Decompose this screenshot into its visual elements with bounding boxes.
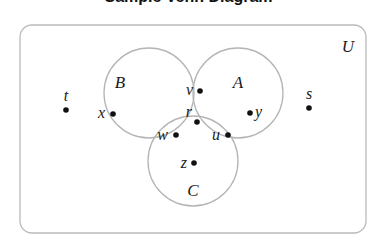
set-a-circle	[193, 48, 283, 138]
point-r-dot	[194, 119, 200, 125]
point-z-dot	[191, 160, 197, 166]
set-b-circle	[104, 48, 194, 138]
point-z-label: z	[180, 154, 188, 171]
point-w-label: w	[157, 126, 168, 143]
universe-rectangle	[20, 25, 366, 233]
point-y-dot	[247, 110, 253, 116]
set-b-label: B	[115, 73, 126, 92]
point-u-dot	[225, 132, 231, 138]
point-v-dot	[197, 88, 203, 94]
point-t-dot	[63, 107, 69, 113]
universe-label: U	[342, 37, 356, 56]
point-t-label: t	[64, 87, 69, 104]
point-x-dot	[110, 111, 116, 117]
point-s-dot	[306, 105, 312, 111]
venn-diagram: UBACtsxyvrwuz	[0, 0, 377, 245]
point-v-label: v	[186, 81, 194, 98]
point-u-label: u	[212, 126, 220, 143]
set-c-label: C	[187, 181, 199, 200]
point-r-label: r	[186, 103, 193, 120]
point-w-dot	[173, 132, 179, 138]
point-y-label: y	[253, 103, 263, 121]
point-x-label: x	[97, 104, 105, 121]
set-a-label: A	[232, 73, 244, 92]
point-s-label: s	[306, 85, 312, 102]
